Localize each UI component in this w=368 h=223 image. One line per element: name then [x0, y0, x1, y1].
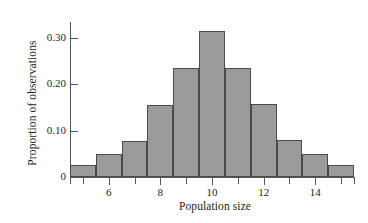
bar — [122, 141, 148, 177]
bar — [225, 68, 251, 177]
x-tick-mark — [238, 177, 239, 184]
x-tick-mark — [264, 177, 265, 185]
y-tick-mark — [71, 38, 78, 39]
bar — [199, 31, 225, 177]
bar — [147, 105, 173, 177]
bar — [96, 154, 122, 177]
y-tick-mark — [71, 84, 78, 85]
x-tick-mark — [83, 177, 84, 184]
histogram-figure: Proportion of observations 00.100.200.30… — [0, 0, 368, 223]
y-tick-label: 0.20 — [47, 77, 66, 89]
x-tick-mark — [341, 177, 342, 184]
x-tick-mark — [354, 177, 355, 184]
bar — [70, 165, 96, 177]
x-tick-label: 12 — [252, 186, 276, 198]
x-tick-mark — [109, 177, 110, 185]
bar — [173, 68, 199, 177]
y-tick-label: 0.10 — [47, 124, 66, 136]
x-tick-label: 8 — [148, 186, 172, 198]
bar — [302, 154, 328, 177]
bar — [277, 140, 303, 177]
x-tick-label: 14 — [303, 186, 327, 198]
bar — [251, 104, 277, 177]
y-axis-title: Proportion of observations — [26, 23, 40, 183]
x-tick-mark — [315, 177, 316, 185]
plot-area: 00.100.200.30 68101214 — [70, 22, 354, 177]
y-tick-label: 0.30 — [47, 31, 66, 43]
x-tick-mark — [186, 177, 187, 184]
bar — [328, 165, 354, 177]
x-tick-mark — [70, 177, 71, 184]
y-tick-label: 0 — [61, 170, 67, 182]
x-tick-mark — [289, 177, 290, 184]
x-tick-mark — [160, 177, 161, 185]
x-tick-mark — [135, 177, 136, 184]
y-tick-mark — [71, 177, 78, 178]
x-axis-title: Population size — [70, 200, 360, 212]
x-tick-mark — [212, 177, 213, 185]
x-tick-label: 10 — [200, 186, 224, 198]
bar-series — [70, 22, 354, 177]
x-tick-label: 6 — [97, 186, 121, 198]
y-tick-mark — [71, 131, 78, 132]
